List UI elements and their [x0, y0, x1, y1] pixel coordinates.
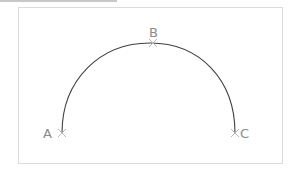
point-c-label: C [240, 126, 249, 141]
arc-curve [62, 43, 235, 133]
point-b-label: B [149, 25, 158, 40]
point-a-label: A [43, 126, 52, 141]
arc-diagram: A B C [0, 0, 302, 172]
